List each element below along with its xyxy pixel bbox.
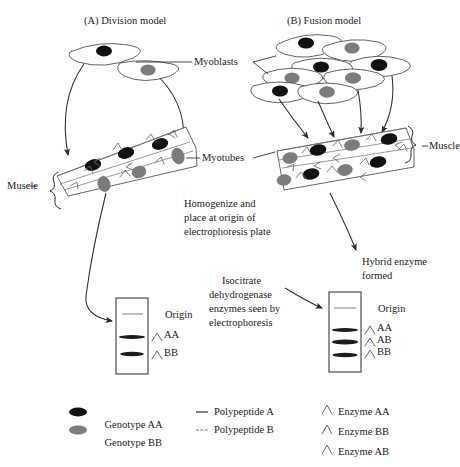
legend-swatch-dark-ellipse [69, 408, 87, 417]
homogenize-note-line-3: electrophoresis plate [184, 225, 271, 238]
gel-right [329, 292, 375, 372]
hybrid-note-line-2: formed [362, 269, 392, 282]
legend-genotype-bb: Genotype BB [94, 423, 162, 463]
hybrid-note-line-1: Hybrid enzyme [362, 255, 427, 268]
legend-swatch-chevron [322, 405, 332, 414]
myoblast-cell [298, 83, 358, 104]
gel-left-band-label: AA [164, 328, 179, 341]
panel-b-title: (B) Fusion model [287, 14, 361, 27]
legend-enzyme-bb: Enzyme BB [338, 425, 389, 438]
myotubes-label: Myotubes [202, 151, 244, 164]
legend-swatch-chevron [322, 425, 332, 434]
panel-b-myoblast-group [251, 35, 411, 138]
legend-genotype-code: BB [148, 437, 162, 448]
muscle-label-left: Muscle [0, 179, 38, 192]
legend-polypeptide-b: Polypeptide B [214, 423, 274, 436]
legend-enzyme-aa: Enzyme AA [338, 405, 390, 418]
isocitrate-note-line-2: dehydrogenase [209, 288, 272, 301]
gel-left-origin-label: Origin [165, 308, 192, 321]
gel-right-origin-label: Origin [378, 302, 405, 315]
myoblast-cell [118, 61, 179, 81]
legend-polypeptide-a: Polypeptide A [214, 405, 274, 418]
nucleus-genotype-bb [140, 64, 155, 75]
legend-enzyme-ab: Enzyme AB [338, 445, 389, 458]
isocitrate-note-line-4: electrophoresis [209, 316, 273, 329]
panel-a-myotube [50, 127, 197, 209]
homogenize-note-line-2: place at origin of [184, 211, 255, 224]
nucleus-genotype-aa [96, 46, 112, 57]
isocitrate-note-line-3: enzymes seen by [209, 302, 280, 315]
gel-right-band-label: BB [377, 345, 391, 358]
panel-a-title: (A) Division model [84, 14, 166, 27]
gel-left [116, 298, 162, 374]
panel-b-myotube [276, 126, 416, 190]
legend-swatch-gray-ellipse [69, 425, 87, 434]
gel-left-band-label: BB [164, 346, 178, 359]
isocitrate-note-line-1: Isocitrate [222, 274, 261, 287]
legend-swatch-chevron [322, 445, 332, 454]
myoblasts-label: Myoblasts [194, 55, 238, 68]
homogenize-note-line-1: Homogenize and [184, 197, 255, 210]
muscle-label-right: Muscle [429, 139, 460, 152]
legend-genotype-prefix: Genotype [105, 437, 146, 448]
